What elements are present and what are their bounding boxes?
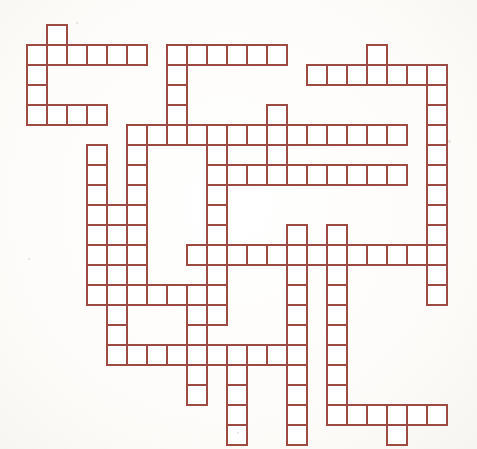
grid-cell[interactable] [127, 345, 147, 365]
grid-cell[interactable] [267, 345, 287, 365]
grid-cell[interactable] [87, 185, 107, 205]
grid-cell[interactable] [267, 165, 287, 185]
grid-cell[interactable] [47, 45, 67, 65]
grid-cell[interactable] [287, 425, 307, 445]
grid-cell[interactable] [167, 125, 187, 145]
grid-cell[interactable] [367, 125, 387, 145]
grid-cell[interactable] [247, 345, 267, 365]
grid-cell[interactable] [187, 365, 207, 385]
grid-cell[interactable] [207, 305, 227, 325]
grid-cell[interactable] [387, 65, 407, 85]
grid-cell[interactable] [227, 365, 247, 385]
grid-cell[interactable] [347, 245, 367, 265]
grid-cell[interactable] [347, 125, 367, 145]
grid-cell[interactable] [427, 125, 447, 145]
grid-cell[interactable] [327, 165, 347, 185]
grid-cell[interactable] [327, 385, 347, 405]
grid-cell[interactable] [187, 245, 207, 265]
grid-cell[interactable] [287, 265, 307, 285]
grid-cell[interactable] [227, 385, 247, 405]
grid-cell[interactable] [127, 265, 147, 285]
grid-cell[interactable] [287, 305, 307, 325]
grid-cell[interactable] [327, 325, 347, 345]
grid-cell[interactable] [427, 85, 447, 105]
grid-cell[interactable] [427, 405, 447, 425]
grid-cell[interactable] [287, 245, 307, 265]
grid-cell[interactable] [107, 205, 127, 225]
grid-cell[interactable] [267, 45, 287, 65]
grid-cell[interactable] [307, 165, 327, 185]
grid-cell[interactable] [427, 165, 447, 185]
grid-cell[interactable] [267, 105, 287, 125]
grid-cell[interactable] [367, 245, 387, 265]
grid-cell[interactable] [127, 45, 147, 65]
grid-cell[interactable] [327, 245, 347, 265]
grid-cell[interactable] [27, 105, 47, 125]
grid-cell[interactable] [127, 285, 147, 305]
grid-cell[interactable] [427, 265, 447, 285]
grid-cell[interactable] [207, 185, 227, 205]
grid-cell[interactable] [387, 125, 407, 145]
grid-cell[interactable] [267, 245, 287, 265]
grid-cell[interactable] [127, 145, 147, 165]
grid-cell[interactable] [207, 145, 227, 165]
grid-cell[interactable] [167, 85, 187, 105]
grid-cell[interactable] [287, 365, 307, 385]
grid-cell[interactable] [287, 385, 307, 405]
grid-cell[interactable] [187, 285, 207, 305]
grid-cell[interactable] [387, 245, 407, 265]
grid-cell[interactable] [347, 165, 367, 185]
grid-cell[interactable] [187, 305, 207, 325]
grid-cell[interactable] [387, 425, 407, 445]
grid-cell[interactable] [267, 145, 287, 165]
grid-cell[interactable] [327, 365, 347, 385]
grid-cell[interactable] [427, 245, 447, 265]
grid-cell[interactable] [87, 105, 107, 125]
grid-cell[interactable] [227, 405, 247, 425]
grid-cell[interactable] [107, 45, 127, 65]
grid-cell[interactable] [427, 65, 447, 85]
grid-cell[interactable] [367, 45, 387, 65]
grid-cell[interactable] [47, 105, 67, 125]
grid-cell[interactable] [127, 185, 147, 205]
grid-cell[interactable] [327, 285, 347, 305]
grid-cell[interactable] [107, 245, 127, 265]
grid-cell[interactable] [307, 65, 327, 85]
grid-cell[interactable] [87, 145, 107, 165]
grid-cell[interactable] [187, 325, 207, 345]
grid-cell[interactable] [427, 145, 447, 165]
grid-cell[interactable] [287, 405, 307, 425]
grid-cell[interactable] [67, 105, 87, 125]
grid-cell[interactable] [187, 125, 207, 145]
grid-cell[interactable] [207, 345, 227, 365]
grid-cell[interactable] [227, 425, 247, 445]
grid-cell[interactable] [347, 65, 367, 85]
grid-cell[interactable] [427, 225, 447, 245]
grid-cell[interactable] [167, 285, 187, 305]
grid-cell[interactable] [107, 265, 127, 285]
grid-cell[interactable] [127, 245, 147, 265]
grid-cell[interactable] [307, 125, 327, 145]
grid-cell[interactable] [407, 245, 427, 265]
grid-cell[interactable] [47, 25, 67, 45]
grid-cell[interactable] [427, 205, 447, 225]
grid-cell[interactable] [27, 45, 47, 65]
grid-cell[interactable] [127, 165, 147, 185]
grid-cell[interactable] [407, 405, 427, 425]
grid-cell[interactable] [407, 65, 427, 85]
grid-cell[interactable] [427, 105, 447, 125]
grid-cell[interactable] [327, 305, 347, 325]
grid-cell[interactable] [327, 345, 347, 365]
grid-cell[interactable] [87, 205, 107, 225]
grid-cell[interactable] [247, 165, 267, 185]
grid-cell[interactable] [247, 245, 267, 265]
grid-cell[interactable] [87, 285, 107, 305]
grid-cell[interactable] [87, 45, 107, 65]
grid-cell[interactable] [107, 345, 127, 365]
grid-cell[interactable] [107, 305, 127, 325]
grid-cell[interactable] [387, 405, 407, 425]
grid-cell[interactable] [427, 185, 447, 205]
grid-cell[interactable] [207, 265, 227, 285]
grid-cell[interactable] [327, 125, 347, 145]
grid-cell[interactable] [147, 285, 167, 305]
